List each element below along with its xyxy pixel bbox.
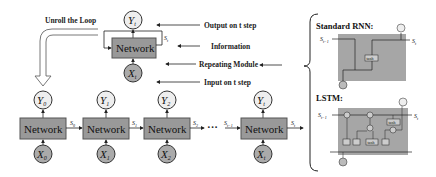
svg-text:LSTM:: LSTM: (316, 93, 343, 103)
svg-text:S1: S1 (132, 120, 137, 128)
svg-text:tanh: tanh (368, 140, 375, 145)
unroll-arrow-icon (35, 29, 98, 86)
cell-2: Y2 Network X2 S2 (144, 91, 204, 163)
svg-text:tanh: tanh (389, 120, 396, 125)
cell-t: St−1 Yt Network Xt St (224, 91, 303, 163)
svg-text:St: St (414, 113, 419, 121)
svg-text:Repeating Module: Repeating Module (199, 60, 259, 69)
folded-network: Yt Network St Xt (104, 11, 169, 82)
svg-text:St−1: St−1 (318, 112, 327, 120)
svg-text:St−1: St−1 (224, 120, 233, 128)
ellipsis: ··· (207, 121, 218, 133)
svg-text:Network: Network (24, 123, 63, 135)
svg-text:tanh: tanh (367, 56, 374, 61)
unroll-label: Unroll the Loop (45, 16, 96, 25)
rnn-diagram: Unroll the Loop Yt Network St Xt Output … (0, 0, 436, 177)
svg-text:St: St (164, 35, 169, 43)
svg-text:St: St (291, 120, 296, 128)
standard-rnn-panel: Standard RNN: St−1 tanh St (316, 21, 417, 89)
svg-text:Network: Network (87, 123, 126, 135)
svg-text:Input on t step: Input on t step (204, 78, 251, 87)
cell-1: Y1 Network X1 S1 (83, 91, 143, 163)
lstm-panel: LSTM: St−1 St tanh tanh (316, 93, 419, 166)
svg-text:S2: S2 (193, 120, 198, 128)
svg-text:St: St (412, 38, 417, 46)
svg-text:S0: S0 (70, 120, 75, 128)
unrolled-sequence: Y0 Network X0 S0 Y1 Network X1 S1 Y2 (20, 91, 303, 163)
cell-0: Y0 Network X0 S0 (20, 91, 82, 163)
svg-text:Network: Network (245, 123, 284, 135)
svg-text:Standard RNN:: Standard RNN: (316, 21, 374, 31)
svg-text:Network: Network (116, 42, 155, 54)
annotations: Output on t step Information Repeating M… (157, 21, 282, 87)
svg-text:St−1: St−1 (320, 36, 329, 44)
svg-text:Information: Information (211, 42, 251, 51)
svg-text:Output on t step: Output on t step (204, 21, 256, 30)
svg-text:Network: Network (148, 123, 187, 135)
